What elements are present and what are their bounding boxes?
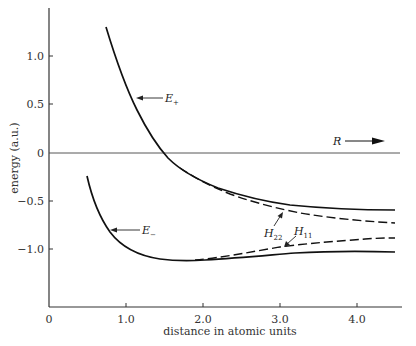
h22-subscript: 22 bbox=[274, 234, 283, 242]
y-tick-label: 1.0 bbox=[27, 50, 45, 63]
x-tick-label: 1.0 bbox=[117, 313, 135, 326]
h22-dashed-curve bbox=[180, 168, 395, 223]
h11-annotation: H11 bbox=[284, 225, 313, 247]
y-tick-label: 0 bbox=[37, 147, 44, 160]
h22-annotation: H22 bbox=[263, 212, 283, 242]
r-label: R bbox=[332, 135, 341, 148]
y-tick-label: 0.5 bbox=[27, 98, 45, 111]
e-minus-subscript: − bbox=[150, 231, 156, 239]
energy-chart: 1.0 0.5 0 −0.5 −1.0 0 1.0 2.0 3.0 4.0 di… bbox=[0, 0, 416, 346]
svg-text:H22: H22 bbox=[263, 227, 283, 242]
x-tick-label: 4.0 bbox=[348, 313, 366, 326]
svg-text:E+: E+ bbox=[164, 92, 179, 107]
e-minus-annotation: E− bbox=[110, 224, 156, 239]
e-plus-label: E bbox=[164, 92, 173, 105]
svg-text:E−: E− bbox=[141, 224, 156, 239]
e-plus-annotation: E+ bbox=[136, 92, 179, 107]
h22-label: H bbox=[263, 227, 274, 240]
svg-text:H11: H11 bbox=[293, 225, 313, 240]
x-tick-label: 0 bbox=[46, 313, 53, 326]
y-tick-label: −0.5 bbox=[17, 195, 44, 208]
h11-dashed-curve bbox=[195, 238, 395, 260]
h11-label: H bbox=[293, 225, 304, 238]
h11-subscript: 11 bbox=[304, 232, 313, 240]
x-axis-title: distance in atomic units bbox=[163, 325, 297, 338]
r-annotation: R bbox=[332, 135, 385, 148]
e-minus-curve bbox=[87, 176, 395, 261]
y-tick-label: −1.0 bbox=[17, 243, 44, 256]
e-plus-curve bbox=[106, 27, 395, 210]
e-minus-label: E bbox=[141, 224, 150, 237]
r-arrow-icon bbox=[372, 138, 385, 145]
e-plus-subscript: + bbox=[173, 99, 179, 107]
y-axis-title: energy (a.u.) bbox=[8, 122, 21, 193]
